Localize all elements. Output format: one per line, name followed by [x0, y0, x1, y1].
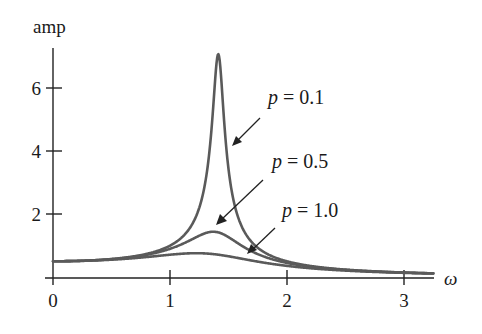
x-ticks: 0123	[48, 270, 409, 311]
y-ticks: 246	[32, 78, 63, 225]
arrow-p-0-5	[221, 180, 263, 220]
resonance-chart: 0123 246 amp ω p = 0.1 p = 0.5 p = 1.0	[0, 0, 482, 334]
svg-text:p = 0.5: p = 0.5	[270, 150, 328, 173]
y-axis-title: amp	[33, 16, 66, 37]
x-axis-title: ω	[444, 268, 457, 289]
arrow-p-0-1	[236, 118, 260, 142]
x-tick-label: 3	[399, 290, 409, 311]
arrow-p-1-0	[252, 228, 275, 250]
y-tick-label: 4	[32, 141, 42, 162]
svg-text:p = 0.1: p = 0.1	[266, 86, 324, 109]
x-tick-label: 1	[165, 290, 175, 311]
curve-p-0-1	[53, 54, 433, 273]
curves	[53, 54, 433, 273]
x-tick-label: 0	[48, 290, 58, 311]
x-tick-label: 2	[282, 290, 292, 311]
svg-text:p = 1.0: p = 1.0	[280, 199, 338, 222]
y-tick-label: 6	[32, 78, 42, 99]
y-tick-label: 2	[32, 204, 42, 225]
curve-p-0-5	[53, 232, 433, 274]
annotation-p-1-0: p = 1.0	[247, 199, 338, 254]
annotation-p-0-1: p = 0.1	[232, 86, 324, 146]
